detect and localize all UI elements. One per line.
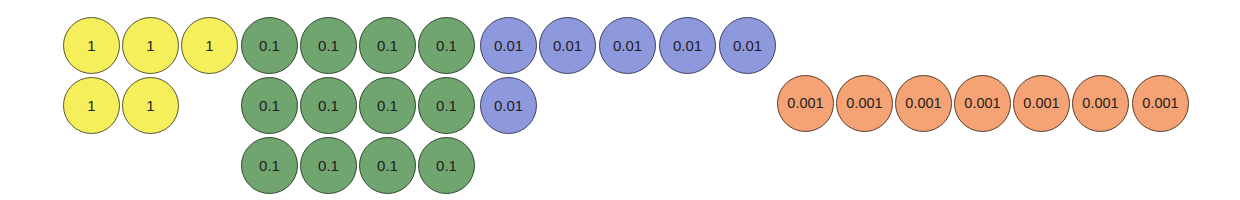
disc-label: 0.1 <box>318 98 339 113</box>
place-value-disc-diagram: 1 1 1 1 1 0.1 0.1 0.1 0.1 0.1 0.1 0.1 0.… <box>0 0 1240 200</box>
disc-label: 1 <box>146 38 154 53</box>
disc-label: 0.01 <box>553 38 582 53</box>
hundredths-disc: 0.01 <box>659 17 716 74</box>
tenths-disc: 0.1 <box>300 77 357 134</box>
disc-label: 0.01 <box>494 98 523 113</box>
disc-label: 0.001 <box>964 96 1000 111</box>
ones-disc: 1 <box>63 77 120 134</box>
disc-label: 0.1 <box>377 98 398 113</box>
thousandths-disc: 0.001 <box>836 75 893 132</box>
disc-label: 0.001 <box>846 96 882 111</box>
tenths-disc: 0.1 <box>241 137 298 194</box>
ones-disc: 1 <box>63 17 120 74</box>
hundredths-disc: 0.01 <box>480 77 537 134</box>
disc-label: 1 <box>205 38 213 53</box>
hundredths-disc: 0.01 <box>539 17 596 74</box>
ones-disc: 1 <box>181 17 238 74</box>
tenths-disc: 0.1 <box>359 137 416 194</box>
disc-label: 0.1 <box>318 38 339 53</box>
tenths-disc: 0.1 <box>300 17 357 74</box>
disc-label: 0.1 <box>259 158 280 173</box>
disc-label: 0.001 <box>787 96 823 111</box>
disc-label: 1 <box>146 98 154 113</box>
thousandths-disc: 0.001 <box>1013 75 1070 132</box>
hundredths-disc: 0.01 <box>719 17 776 74</box>
thousandths-disc: 0.001 <box>954 75 1011 132</box>
tenths-disc: 0.1 <box>241 17 298 74</box>
ones-disc: 1 <box>122 17 179 74</box>
tenths-disc: 0.1 <box>418 17 475 74</box>
tenths-disc: 0.1 <box>359 77 416 134</box>
disc-label: 0.001 <box>1023 96 1059 111</box>
tenths-disc: 0.1 <box>300 137 357 194</box>
thousandths-disc: 0.001 <box>895 75 952 132</box>
disc-label: 0.01 <box>673 38 702 53</box>
hundredths-disc: 0.01 <box>599 17 656 74</box>
tenths-disc: 0.1 <box>418 137 475 194</box>
disc-label: 0.1 <box>436 158 457 173</box>
thousandths-disc: 0.001 <box>1072 75 1129 132</box>
tenths-disc: 0.1 <box>241 77 298 134</box>
disc-label: 0.1 <box>318 158 339 173</box>
disc-label: 1 <box>87 38 95 53</box>
disc-label: 0.01 <box>733 38 762 53</box>
thousandths-disc: 0.001 <box>1132 75 1189 132</box>
tenths-disc: 0.1 <box>359 17 416 74</box>
disc-label: 0.001 <box>1142 96 1178 111</box>
disc-label: 0.1 <box>436 98 457 113</box>
disc-label: 1 <box>87 98 95 113</box>
disc-label: 0.1 <box>436 38 457 53</box>
hundredths-disc: 0.01 <box>480 17 537 74</box>
thousandths-disc: 0.001 <box>777 75 834 132</box>
ones-disc: 1 <box>122 77 179 134</box>
disc-label: 0.001 <box>905 96 941 111</box>
disc-label: 0.1 <box>377 158 398 173</box>
disc-label: 0.1 <box>259 38 280 53</box>
disc-label: 0.01 <box>613 38 642 53</box>
disc-label: 0.01 <box>494 38 523 53</box>
disc-label: 0.1 <box>377 38 398 53</box>
disc-label: 0.001 <box>1082 96 1118 111</box>
disc-label: 0.1 <box>259 98 280 113</box>
tenths-disc: 0.1 <box>418 77 475 134</box>
